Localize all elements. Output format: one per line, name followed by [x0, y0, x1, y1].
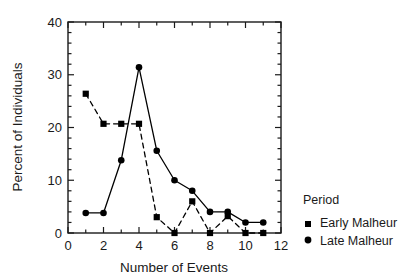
- line-chart: 024681012 010203040 Number of Events Per…: [0, 0, 413, 279]
- data-point-circle-marker: [153, 147, 160, 154]
- data-point-circle-marker: [171, 177, 178, 184]
- x-axis-title: Number of Events: [120, 260, 228, 275]
- data-point-square-marker: [83, 91, 89, 97]
- legend-item-late-malheur: Late Malheur: [320, 234, 393, 248]
- y-tick-label: 10: [48, 173, 62, 188]
- legend-item-early-malheur: Early Malheur: [320, 216, 397, 230]
- data-point-square-marker: [171, 230, 177, 236]
- data-point-square-marker: [242, 230, 248, 236]
- circle-marker-icon: [305, 237, 312, 244]
- data-point-circle-marker: [118, 157, 125, 164]
- y-tick-label: 0: [55, 226, 62, 241]
- legend-title: Period: [303, 193, 339, 207]
- x-tick-label: 12: [274, 238, 288, 253]
- data-point-circle-marker: [100, 210, 107, 217]
- data-point-square-marker: [100, 121, 106, 127]
- data-point-square-marker: [154, 214, 160, 220]
- x-tick-label: 2: [100, 238, 107, 253]
- y-tick-label: 20: [48, 120, 62, 135]
- x-tick-label: 0: [64, 238, 71, 253]
- data-point-circle-marker: [136, 64, 143, 71]
- data-point-square-marker: [207, 230, 213, 236]
- data-point-circle-marker: [207, 209, 214, 216]
- data-point-circle-marker: [224, 209, 231, 216]
- data-point-circle-marker: [82, 210, 89, 217]
- y-tick-label: 30: [48, 67, 62, 82]
- chart-screenshot: 024681012 010203040 Number of Events Per…: [0, 0, 413, 279]
- data-point-circle-marker: [260, 219, 267, 226]
- x-tick-label: 6: [171, 238, 178, 253]
- x-tick-label: 8: [206, 238, 213, 253]
- data-point-square-marker: [118, 121, 124, 127]
- square-marker-icon: [305, 221, 311, 227]
- data-point-square-marker: [189, 198, 195, 204]
- data-point-circle-marker: [242, 219, 249, 226]
- data-point-square-marker: [260, 230, 266, 236]
- data-point-square-marker: [136, 121, 142, 127]
- x-tick-label: 10: [238, 238, 252, 253]
- y-tick-label: 40: [48, 15, 62, 30]
- y-axis-title: Percent of Individuals: [10, 62, 25, 191]
- data-point-circle-marker: [189, 188, 196, 195]
- x-tick-label: 4: [135, 238, 142, 253]
